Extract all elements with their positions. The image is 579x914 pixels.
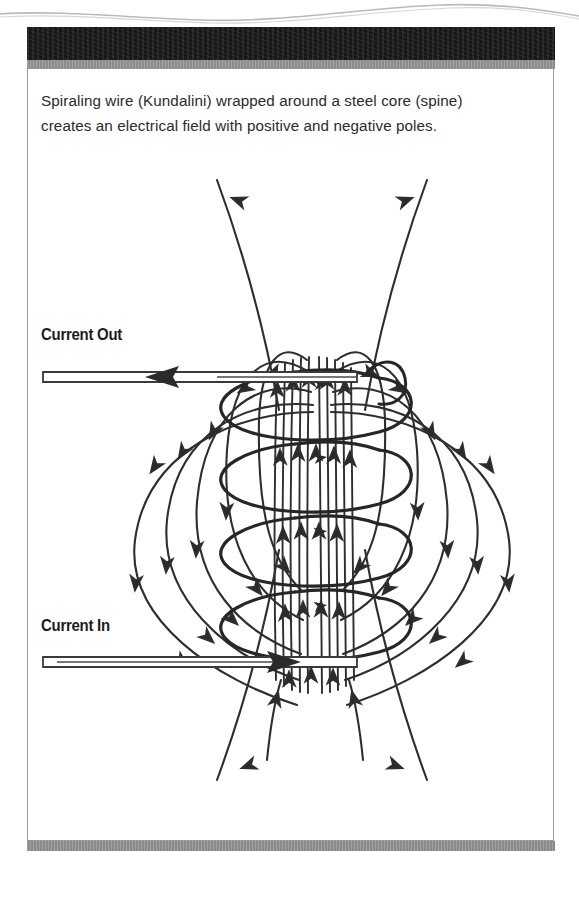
header-gray-rule: [27, 60, 555, 69]
electromagnet-diagram: [27, 120, 554, 840]
scanned-page: Spiraling wire (Kundalini) wrapped aroun…: [0, 0, 579, 914]
scan-edge-artifact: [0, 0, 579, 26]
header-bar: [27, 27, 555, 60]
header-bar-texture: [27, 27, 555, 60]
label-current-out: Current Out: [41, 325, 122, 345]
field-lines: [130, 180, 514, 780]
footer-gray-rule: [27, 841, 555, 851]
core-interior-field-lines: [275, 357, 354, 693]
bottom-convergence-lines: [267, 680, 363, 760]
caption-line-1: Spiraling wire (Kundalini) wrapped aroun…: [41, 88, 539, 113]
label-current-in: Current In: [41, 616, 110, 636]
